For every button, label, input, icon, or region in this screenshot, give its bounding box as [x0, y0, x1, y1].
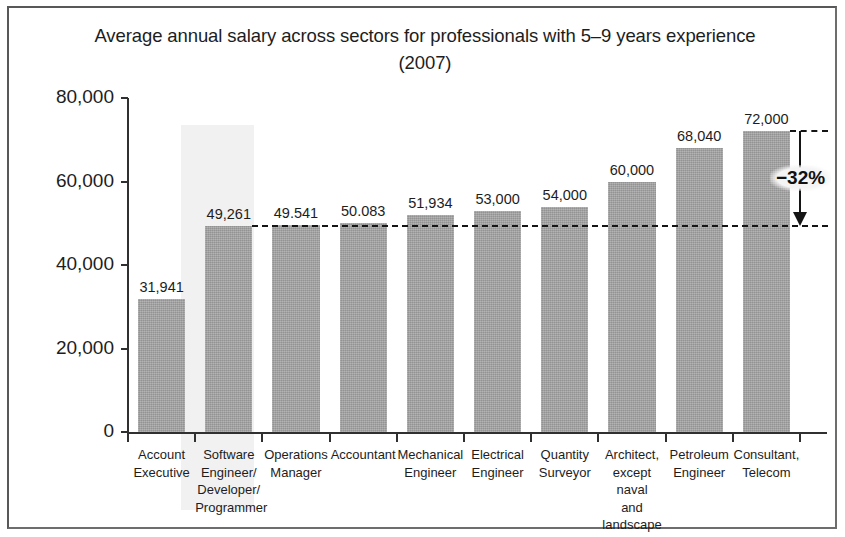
- x-category-label: Architect,except navalandlandscape: [598, 446, 665, 534]
- y-tick-mark: [121, 348, 128, 350]
- bar-value-label: 53,000: [464, 192, 531, 207]
- x-category-label: SoftwareEngineer/Developer/Programmer: [195, 446, 262, 516]
- y-tick-mark: [121, 431, 128, 433]
- bar-slot: 60,000: [598, 98, 665, 432]
- x-category-label: Consultant,Telecom: [733, 446, 800, 481]
- x-tick-mark: [261, 434, 263, 442]
- bar[interactable]: [407, 215, 454, 432]
- bar-value-label: 49,261: [195, 207, 262, 222]
- bar-slot: 54,000: [531, 98, 598, 432]
- chart-title-line-2: (2007): [40, 49, 810, 76]
- bar-value-label: 68,040: [666, 129, 733, 144]
- x-tick-mark: [194, 434, 196, 442]
- x-category-label: Accountant: [330, 446, 397, 464]
- bar-value-label: 50.083: [330, 204, 397, 219]
- chart-figure: Average annual salary across sectors for…: [0, 0, 845, 537]
- x-category-label-line: Engineer: [464, 464, 531, 482]
- bar-value-label: 54,000: [531, 188, 598, 203]
- delta-percentage-label: −32%: [770, 165, 831, 191]
- bar-value-label: 51,934: [397, 196, 464, 211]
- x-category-label-line: Software: [195, 446, 262, 464]
- x-category-label-line: except naval: [598, 464, 665, 499]
- x-category-label-line: Petroleum: [666, 446, 733, 464]
- x-category-label-line: Developer/: [195, 481, 262, 499]
- x-category-label-line: Account: [128, 446, 195, 464]
- x-tick-mark: [530, 434, 532, 442]
- x-category-label-line: Consultant,: [733, 446, 800, 464]
- x-category-label-line: Operations: [262, 446, 329, 464]
- chart-title: Average annual salary across sectors for…: [40, 22, 810, 76]
- x-category-label: AccountExecutive: [128, 446, 195, 481]
- x-category-label-line: Architect,: [598, 446, 665, 464]
- bar[interactable]: [676, 148, 723, 432]
- x-tick-mark: [732, 434, 734, 442]
- bar-slot: 49,261: [195, 98, 262, 432]
- y-tick-label: 40,000: [10, 254, 114, 274]
- y-tick-label: 20,000: [10, 338, 114, 358]
- bar-slot: 53,000: [464, 98, 531, 432]
- bar-value-label: 72,000: [733, 112, 800, 127]
- reference-line-lower: [252, 225, 828, 227]
- bar-slot: 51,934: [397, 98, 464, 432]
- bar-slot: 31,941: [128, 98, 195, 432]
- y-tick-label: 60,000: [10, 171, 114, 191]
- x-tick-mark: [329, 434, 331, 442]
- x-category-label-line: Accountant: [330, 446, 397, 464]
- x-category-label-line: Engineer: [397, 464, 464, 482]
- chart-title-line-1: Average annual salary across sectors for…: [40, 22, 810, 49]
- x-tick-mark: [597, 434, 599, 442]
- x-category-label-line: Surveyor: [531, 464, 598, 482]
- plot-area: 31,94149,26149.54150.08351,93453,00054,0…: [128, 98, 800, 432]
- x-category-label: OperationsManager: [262, 446, 329, 481]
- bar-value-label: 60,000: [598, 163, 665, 178]
- x-category-label: MechanicalEngineer: [397, 446, 464, 481]
- y-tick-mark: [121, 264, 128, 266]
- x-tick-mark: [799, 434, 801, 442]
- bar[interactable]: [474, 211, 521, 432]
- x-category-label: PetroleumEngineer: [666, 446, 733, 481]
- x-tick-mark: [665, 434, 667, 442]
- x-axis-line: [127, 432, 827, 434]
- x-category-label-line: Electrical: [464, 446, 531, 464]
- x-category-label-line: Telecom: [733, 464, 800, 482]
- x-category-label-line: landscape: [598, 516, 665, 534]
- x-category-label-line: Quantity: [531, 446, 598, 464]
- x-category-label-line: Manager: [262, 464, 329, 482]
- y-tick-mark: [121, 97, 128, 99]
- bar[interactable]: [340, 223, 387, 432]
- x-category-label: ElectricalEngineer: [464, 446, 531, 481]
- x-category-label-line: Executive: [128, 464, 195, 482]
- bar-value-label: 31,941: [128, 280, 195, 295]
- x-category-label: QuantitySurveyor: [531, 446, 598, 481]
- bar[interactable]: [138, 299, 185, 432]
- y-tick-label: 0: [10, 421, 114, 441]
- x-category-label-line: and: [598, 499, 665, 517]
- bar[interactable]: [541, 207, 588, 432]
- bar[interactable]: [205, 226, 252, 432]
- y-tick-mark: [121, 181, 128, 183]
- x-tick-mark: [463, 434, 465, 442]
- x-category-label-line: Mechanical: [397, 446, 464, 464]
- bar-slot: 68,040: [666, 98, 733, 432]
- x-category-label-line: Programmer: [195, 499, 262, 517]
- bar-slot: 49.541: [262, 98, 329, 432]
- x-category-label-line: Engineer: [666, 464, 733, 482]
- x-tick-mark: [396, 434, 398, 442]
- bar[interactable]: [608, 182, 655, 433]
- bar-slot: 50.083: [330, 98, 397, 432]
- bar[interactable]: [272, 225, 319, 432]
- bar-value-label: 49.541: [262, 206, 329, 221]
- x-tick-mark: [127, 434, 129, 442]
- y-tick-label: 80,000: [10, 87, 114, 107]
- x-category-label-line: Engineer/: [195, 464, 262, 482]
